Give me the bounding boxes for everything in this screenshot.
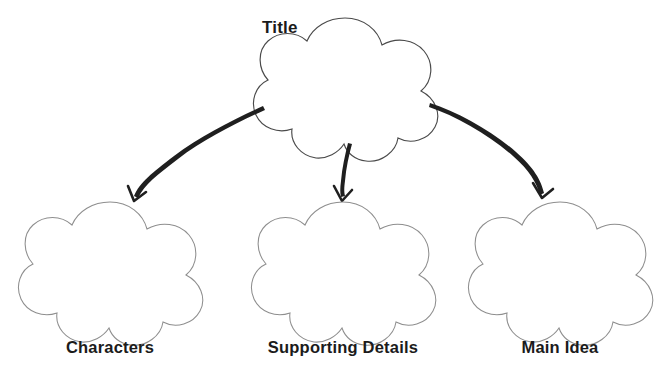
root-label-title: Title	[262, 18, 298, 37]
child-label-supporting-details: Supporting Details	[268, 338, 418, 356]
child-label-characters: Characters	[66, 338, 154, 356]
child-label-main-idea: Main Idea	[522, 338, 600, 356]
graphic-organizer-canvas: Title Characters Supporting Details Main…	[0, 0, 666, 368]
